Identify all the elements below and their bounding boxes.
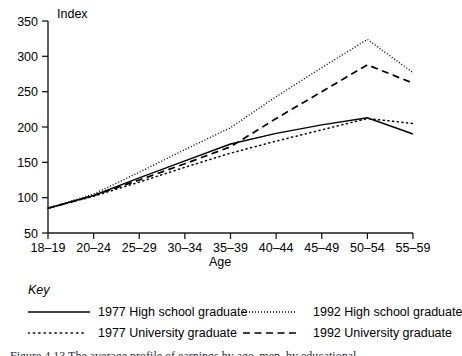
x-tick-label: 25–29 — [122, 241, 157, 255]
x-axis-ticks — [48, 233, 413, 239]
x-tick-label: 35–39 — [213, 241, 248, 255]
legend-item-1992-university[interactable]: 1992 University graduate — [243, 326, 440, 340]
y-tick-label: 300 — [17, 50, 38, 64]
y-tick-label: 350 — [17, 15, 38, 29]
legend-title: Key — [28, 283, 440, 297]
legend-label: 1977 High school graduate — [98, 305, 247, 319]
legend-row: 1977 High school graduate 1992 High scho… — [28, 301, 440, 322]
y-axis-tick-labels: 50100150200250300350 — [17, 15, 38, 241]
dotted-line-swatch — [28, 327, 90, 339]
x-tick-label: 30–34 — [167, 241, 202, 255]
series-line — [48, 118, 413, 208]
legend-row: 1977 University graduate 1992 University… — [28, 322, 440, 343]
dashed-line-swatch — [243, 327, 305, 339]
x-axis-tick-labels: 18–1920–2425–2930–3435–3940–4445–4950–54… — [31, 241, 431, 255]
legend-item-1992-high-school[interactable]: 1992 High school graduate — [243, 305, 440, 319]
y-axis-ticks — [42, 21, 48, 233]
legend-label: 1992 High school graduate — [313, 305, 462, 319]
y-tick-label: 50 — [24, 227, 38, 241]
y-axis-title: Index — [57, 7, 88, 21]
line-chart-plot: 50100150200250300350 18–1920–2425–2930–3… — [0, 0, 440, 260]
y-tick-label: 200 — [17, 121, 38, 135]
x-tick-label: 55–59 — [396, 241, 431, 255]
x-axis-title: Age — [0, 255, 440, 269]
x-tick-label: 18–19 — [31, 241, 66, 255]
y-tick-label: 250 — [17, 85, 38, 99]
legend: Key 1977 High school graduate 1992 High … — [28, 283, 440, 343]
legend-label: 1977 University graduate — [98, 326, 237, 340]
series-line — [48, 65, 413, 208]
figure-caption: Figure 4.13 The average profile of earni… — [10, 349, 440, 356]
series-lines — [48, 39, 413, 208]
legend-item-1977-high-school[interactable]: 1977 High school graduate — [28, 305, 243, 319]
series-line — [48, 119, 413, 209]
x-tick-label: 40–44 — [259, 241, 294, 255]
series-line — [48, 39, 413, 208]
fine-dotted-line-swatch — [243, 306, 305, 318]
y-tick-label: 100 — [17, 191, 38, 205]
legend-item-1977-university[interactable]: 1977 University graduate — [28, 326, 243, 340]
y-tick-label: 150 — [17, 156, 38, 170]
solid-line-swatch — [28, 306, 90, 318]
x-tick-label: 20–24 — [76, 241, 111, 255]
x-tick-label: 50–54 — [350, 241, 385, 255]
x-tick-label: 45–49 — [304, 241, 339, 255]
legend-label: 1992 University graduate — [313, 326, 452, 340]
